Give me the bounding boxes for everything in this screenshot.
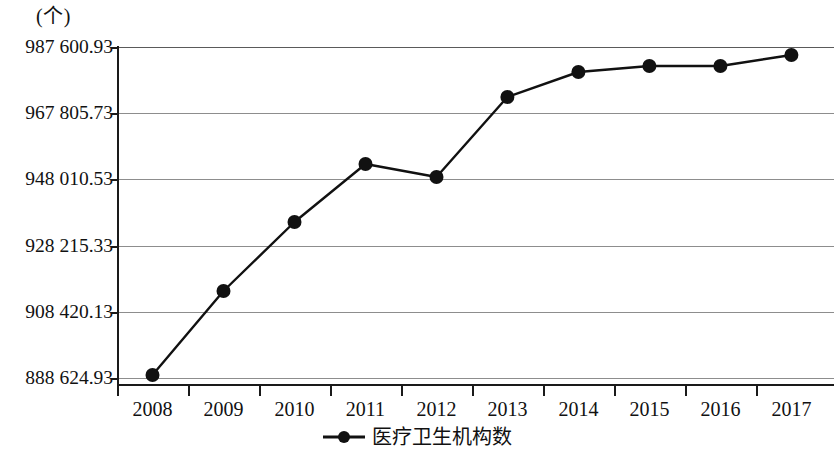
- data-point-2015[interactable]: [642, 59, 656, 73]
- data-point-2017[interactable]: [784, 48, 798, 62]
- data-point-2013[interactable]: [500, 90, 514, 104]
- line-with-dot-marker-icon: [322, 429, 366, 445]
- data-point-2016[interactable]: [713, 59, 727, 73]
- data-point-2014[interactable]: [571, 65, 585, 79]
- data-point-2012[interactable]: [430, 170, 444, 184]
- legend-item-0[interactable]: 医疗卫生机构数: [322, 424, 512, 450]
- data-point-2011[interactable]: [359, 157, 373, 171]
- legend-label-0: 医疗卫生机构数: [372, 424, 512, 450]
- data-point-2010[interactable]: [288, 215, 302, 229]
- data-point-2009[interactable]: [217, 284, 231, 298]
- data-series-layer: [0, 0, 834, 457]
- data-point-2008[interactable]: [146, 368, 160, 382]
- chart-legend: 医疗卫生机构数: [0, 424, 834, 450]
- series-line-0: [153, 55, 792, 375]
